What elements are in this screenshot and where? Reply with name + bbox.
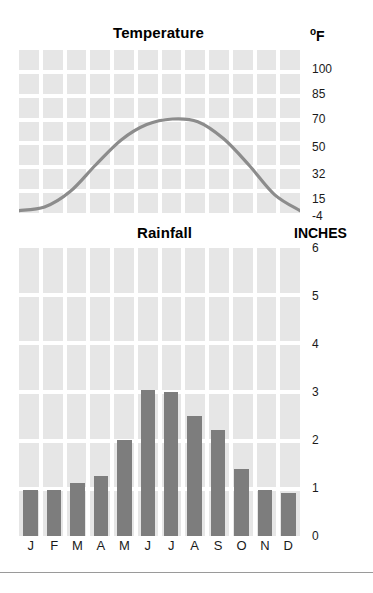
temperature-curve — [19, 50, 300, 213]
month-label-n-10: N — [253, 538, 276, 554]
month-label-m-2: M — [66, 538, 89, 554]
rainfall-tick-1: 5 — [312, 290, 319, 302]
rainfall-bar — [187, 416, 202, 536]
rainfall-tick-4: 2 — [312, 434, 319, 446]
rainfall-bar — [211, 430, 226, 536]
temperature-tick-0: 100 — [312, 63, 332, 75]
month-label-o-9: O — [230, 538, 253, 554]
month-label-f-1: F — [42, 538, 65, 554]
rainfall-bar — [47, 490, 62, 536]
month-label-a-3: A — [89, 538, 112, 554]
temperature-tick-3: 50 — [312, 141, 325, 153]
rainfall-bar — [164, 392, 179, 536]
temperature-tick-4: 32 — [312, 168, 325, 180]
rainfall-bar — [141, 390, 156, 536]
rainfall-bars — [19, 248, 300, 536]
rainfall-tick-5: 1 — [312, 482, 319, 494]
temperature-tick-6: -4 — [312, 210, 323, 222]
rainfall-bar — [258, 490, 273, 536]
temperature-plot-area — [19, 50, 300, 213]
temperature-title: Temperature — [113, 24, 204, 41]
temperature-unit-letter: F — [316, 28, 325, 44]
rainfall-title: Rainfall — [137, 224, 192, 241]
rainfall-tick-3: 3 — [312, 386, 319, 398]
rainfall-tick-0: 6 — [312, 242, 319, 254]
rainfall-bar — [70, 483, 85, 536]
rainfall-bar — [94, 476, 109, 536]
month-label-j-5: J — [136, 538, 159, 554]
temperature-tick-2: 70 — [312, 113, 325, 125]
rainfall-bar — [117, 440, 132, 536]
temperature-tick-5: 15 — [312, 193, 325, 205]
month-label-m-4: M — [113, 538, 136, 554]
rainfall-plot-area — [19, 248, 300, 536]
month-axis-labels: JFMAMJJASOND — [19, 538, 300, 558]
temperature-tick-1: 85 — [312, 88, 325, 100]
month-label-a-7: A — [183, 538, 206, 554]
temperature-axis-unit: oF — [310, 26, 325, 44]
rainfall-bar — [23, 490, 38, 536]
rainfall-tick-2: 4 — [312, 338, 319, 350]
rainfall-tick-6: 0 — [312, 530, 319, 542]
rainfall-axis-unit: INCHES — [294, 225, 347, 241]
month-label-d-11: D — [277, 538, 300, 554]
rainfall-bar — [234, 469, 249, 536]
month-label-j-6: J — [160, 538, 183, 554]
bottom-divider — [0, 572, 373, 573]
rainfall-bar — [281, 493, 296, 536]
month-label-j-0: J — [19, 538, 42, 554]
month-label-s-8: S — [206, 538, 229, 554]
